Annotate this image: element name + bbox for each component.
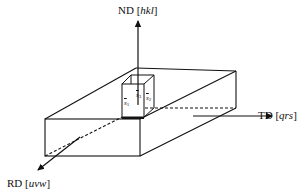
s3-subscript: 3 bbox=[139, 94, 142, 99]
diagram-svg bbox=[0, 0, 306, 196]
slab-front-face bbox=[45, 119, 140, 156]
s1-vector-label: s1 bbox=[124, 100, 129, 107]
cube-edge-top-right bbox=[144, 75, 154, 84]
rd-axis-arrow bbox=[38, 137, 80, 170]
s2-vector-label: s2 bbox=[146, 95, 151, 102]
nd-axis-name: ND bbox=[118, 4, 134, 16]
nd-bracket-close: ] bbox=[154, 4, 158, 16]
cube-edge-top-left bbox=[122, 75, 131, 84]
td-axis-label: TD [qrs] bbox=[258, 110, 297, 121]
td-bracket-close: ] bbox=[293, 109, 297, 121]
rd-bracket-close: ] bbox=[46, 177, 50, 189]
rd-axis-indices: uvw bbox=[29, 177, 47, 189]
diagram-canvas: ND [hkl] TD [qrs] RD [uvw] s1 s3 s2 bbox=[0, 0, 306, 196]
rd-axis-label: RD [uvw] bbox=[7, 178, 50, 189]
nd-axis-label: ND [hkl] bbox=[118, 5, 157, 16]
nd-axis-indices: hkl bbox=[140, 4, 153, 16]
s1-subscript: 1 bbox=[127, 102, 130, 107]
td-axis-name: TD bbox=[258, 109, 273, 121]
s2-subscript: 2 bbox=[149, 97, 152, 102]
rd-axis-name: RD bbox=[7, 177, 22, 189]
s3-vector-label: s3 bbox=[136, 92, 141, 99]
td-axis-indices: qrs bbox=[279, 109, 293, 121]
slab-bottom-right-edge bbox=[140, 108, 236, 156]
slab-top-back-edge bbox=[136, 68, 236, 71]
